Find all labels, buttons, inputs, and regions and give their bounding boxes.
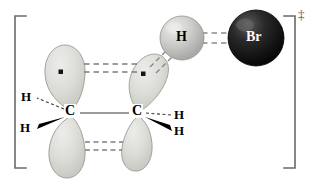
transition-state-figure: C C H H H H H Br ‡: [0, 0, 312, 184]
atom-label-bromine-sphere: Br: [246, 30, 262, 44]
double-dagger-superscript: ‡: [298, 8, 305, 21]
atom-label-hydrogen-sphere: H: [176, 30, 187, 44]
label-layer: C C H H H H H Br ‡: [0, 0, 312, 184]
atom-label-hydrogen-right-wedge: H: [174, 124, 184, 137]
atom-label-hydrogen-left-back: H: [21, 90, 31, 103]
atom-label-hydrogen-left-wedge: H: [20, 121, 30, 134]
atom-label-carbon-left: C: [64, 104, 76, 118]
atom-label-carbon-right: C: [131, 104, 143, 118]
atom-label-hydrogen-right-back: H: [174, 108, 184, 121]
